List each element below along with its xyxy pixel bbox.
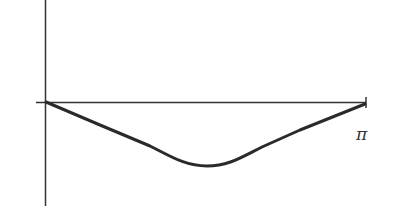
plot-canvas <box>0 0 393 211</box>
function-curve <box>46 102 365 166</box>
x-tick-label-pi: π <box>356 124 367 144</box>
